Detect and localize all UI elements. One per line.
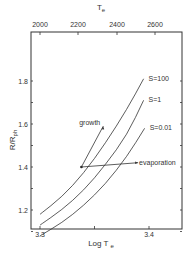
y-tick-label: 1.6 xyxy=(18,121,28,128)
x-tick-label: 3.4 xyxy=(144,231,154,238)
evaporation-label: evaporation xyxy=(139,159,176,167)
x-axis-title: Log T e xyxy=(88,239,114,249)
series-layer: S=100S=1S=0.01 xyxy=(40,75,172,236)
top-tick-label: 2600 xyxy=(147,21,163,28)
chart: Te 2000220024002600 1.21.41.61.8 R/Rph 3… xyxy=(0,0,192,256)
top-axis: Te 2000220024002600 xyxy=(32,3,163,35)
y-tick-label: 1.8 xyxy=(18,78,28,85)
y-axis-title: R/Rph xyxy=(8,130,18,150)
top-tick-label: 2200 xyxy=(70,21,86,28)
y-tick-label: 1.4 xyxy=(18,164,28,171)
series-line-2 xyxy=(40,128,145,236)
x-tick-label: 3.3 xyxy=(35,231,45,238)
series-label: S=0.01 xyxy=(150,124,172,131)
arrowhead-icon xyxy=(135,161,138,164)
series-line-0 xyxy=(40,79,144,215)
top-tick-label: 2400 xyxy=(109,21,125,28)
top-tick-label: 2000 xyxy=(32,21,48,28)
y-tick-label: 1.2 xyxy=(18,207,28,214)
top-axis-title: Te xyxy=(97,3,106,13)
growth-label: growth xyxy=(79,119,100,127)
series-label: S=100 xyxy=(149,75,170,82)
series-label: S=1 xyxy=(149,96,162,103)
